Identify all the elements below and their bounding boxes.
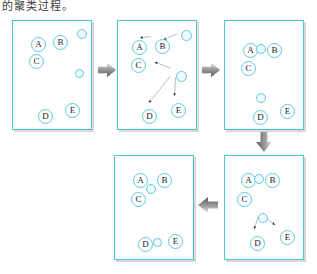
node-b: B bbox=[267, 43, 282, 58]
node-a-label: A bbox=[35, 40, 42, 49]
node-a-label: A bbox=[245, 176, 252, 185]
flow-arrow-1-to-2-glyph bbox=[98, 63, 116, 78]
node-d-label: D bbox=[142, 240, 149, 249]
node-b-label: B bbox=[271, 46, 277, 55]
node-b: B bbox=[265, 173, 280, 188]
node-d: D bbox=[250, 236, 265, 251]
flow-arrow-4-to-5-glyph bbox=[198, 197, 218, 213]
node-c-label: C bbox=[135, 195, 141, 204]
node-c: C bbox=[241, 61, 256, 76]
node-e: E bbox=[65, 103, 80, 118]
node-centroid-1 bbox=[146, 184, 156, 194]
panel-2-inner: ABCDE bbox=[118, 21, 196, 129]
flow-arrow-3-to-4 bbox=[252, 130, 276, 154]
node-d-label: D bbox=[254, 239, 261, 248]
flow-arrow-4-to-5 bbox=[196, 193, 220, 217]
node-c: C bbox=[29, 54, 44, 69]
panel-5: ABCDE bbox=[114, 155, 194, 260]
node-b-label: B bbox=[57, 38, 63, 47]
node-centroid-1 bbox=[254, 174, 264, 184]
node-d: D bbox=[253, 110, 268, 125]
node-centroid-1 bbox=[256, 44, 266, 54]
node-centroid-1 bbox=[77, 29, 87, 39]
panel-4-inner: ABCDE bbox=[225, 156, 303, 259]
arrow-b-to-a bbox=[140, 37, 151, 38]
arrow-centroid2-to-d bbox=[149, 76, 170, 103]
panel-3-inner: ABCDE bbox=[225, 21, 303, 129]
node-b-label: B bbox=[159, 42, 165, 51]
node-e-label: E bbox=[173, 237, 179, 246]
node-b: B bbox=[157, 173, 172, 188]
node-c: C bbox=[131, 192, 146, 207]
node-e: E bbox=[168, 234, 183, 249]
node-c: C bbox=[237, 192, 252, 207]
node-c-label: C bbox=[33, 57, 39, 66]
node-c: C bbox=[131, 58, 146, 73]
node-e-label: E bbox=[285, 233, 291, 242]
arrow-centroid1-to-b bbox=[164, 34, 178, 40]
node-centroid-2 bbox=[153, 238, 162, 247]
node-e: E bbox=[280, 230, 295, 245]
node-d: D bbox=[138, 237, 153, 252]
node-centroid-1 bbox=[181, 30, 192, 41]
flow-arrow-2-to-3-glyph bbox=[202, 63, 220, 78]
arrow-centroid2-to-c bbox=[155, 62, 171, 68]
flow-arrow-3-to-4-glyph bbox=[256, 132, 272, 152]
node-a-label: A bbox=[247, 46, 254, 55]
panel-2: ABCDE bbox=[117, 20, 197, 130]
node-a: A bbox=[132, 40, 147, 55]
node-centroid-2 bbox=[176, 71, 187, 82]
node-d: D bbox=[142, 109, 157, 124]
flow-arrow-1-to-2 bbox=[96, 58, 118, 82]
node-e: E bbox=[280, 104, 295, 119]
node-c-label: C bbox=[245, 64, 251, 73]
node-b: B bbox=[53, 35, 68, 50]
node-a-label: A bbox=[137, 176, 144, 185]
node-d-label: D bbox=[146, 112, 153, 121]
panel-3: ABCDE bbox=[224, 20, 304, 130]
node-c-label: C bbox=[135, 61, 141, 70]
node-e-label: E bbox=[176, 106, 182, 115]
node-c-label: C bbox=[241, 195, 247, 204]
diagram-canvas: 的聚类过程。 ABCDEABCDEABCDEABCDEABCDE bbox=[0, 0, 317, 274]
node-b-label: B bbox=[161, 176, 167, 185]
flow-arrow-2-to-3 bbox=[200, 58, 222, 82]
arrow-centroid2-to-e bbox=[175, 77, 176, 96]
node-a: A bbox=[31, 37, 46, 52]
node-d-label: D bbox=[257, 113, 264, 122]
node-centroid-2 bbox=[256, 93, 266, 103]
node-centroid-2 bbox=[75, 69, 84, 78]
panel-1: ABCDE bbox=[12, 20, 92, 130]
panel-5-inner: ABCDE bbox=[115, 156, 193, 259]
node-centroid-2 bbox=[258, 213, 268, 223]
node-d: D bbox=[38, 109, 53, 124]
node-b: B bbox=[155, 39, 170, 54]
node-d-label: D bbox=[42, 112, 49, 121]
panel-1-inner: ABCDE bbox=[13, 21, 91, 129]
node-e: E bbox=[171, 103, 186, 118]
node-e-label: E bbox=[70, 106, 76, 115]
node-e-label: E bbox=[285, 107, 291, 116]
caption-text: 的聚类过程。 bbox=[2, 0, 122, 13]
node-a-label: A bbox=[136, 43, 143, 52]
node-b-label: B bbox=[269, 176, 275, 185]
panel-4: ABCDE bbox=[224, 155, 304, 260]
